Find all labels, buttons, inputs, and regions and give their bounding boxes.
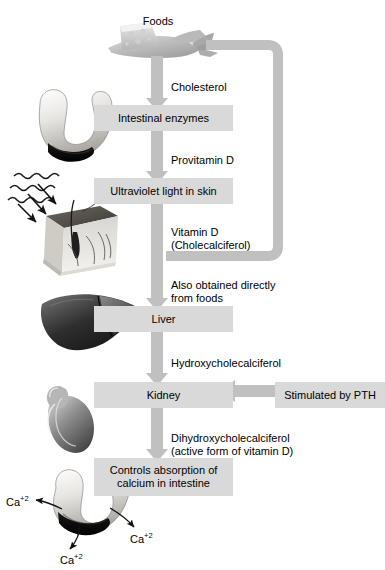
- arrow-liver-to-kidney: [146, 331, 168, 386]
- calcium-arrow-bottom: [70, 524, 80, 549]
- process-box-ultraviolet-light-in-skin: Ultraviolet light in skin: [94, 178, 233, 204]
- arrow-label-dihydroxycholecalciferol: Dihydroxycholecalciferol (active form of…: [171, 419, 293, 458]
- arrow-intestine-to-skin: [146, 129, 168, 184]
- calcium-ion-label-bottom: Ca+2: [60, 551, 83, 566]
- box-label-stimulated-by-pth: Stimulated by PTH: [284, 389, 376, 402]
- box-label-controls-absorption: Controls absorption of calcium in intest…: [110, 464, 218, 490]
- box-label-liver: Liver: [152, 313, 176, 326]
- calcium-arrow-left: [36, 500, 62, 509]
- box-label-kidney: Kidney: [147, 389, 181, 402]
- skin-cross-section-illustration: [43, 198, 118, 276]
- arrow-label-hydroxycholecalciferol: Hydroxycholecalciferol: [171, 344, 281, 370]
- arrow-skin-to-junction: [151, 202, 163, 256]
- charge-superscript: +2: [20, 494, 29, 503]
- arrow-kidney-to-intestine: [146, 407, 168, 462]
- arrow-label-provitamin-d: Provitamin D: [171, 141, 234, 167]
- process-box-liver: Liver: [94, 306, 233, 332]
- process-box-intestinal-enzymes: Intestinal enzymes: [94, 105, 233, 131]
- uv-ray-arrows: [18, 184, 56, 222]
- arrow-junction-to-liver: [146, 256, 168, 311]
- figure-title-foods: Foods: [126, 2, 190, 28]
- process-box-kidney: Kidney: [94, 382, 233, 408]
- process-box-stimulated-by-pth: Stimulated by PTH: [275, 382, 385, 408]
- arrow-foods-to-intestine: [146, 56, 168, 111]
- box-label-ultraviolet-light-in-skin: Ultraviolet light in skin: [110, 185, 216, 198]
- ultraviolet-rays-icon: [8, 174, 59, 203]
- charge-superscript: +2: [74, 552, 83, 561]
- box-label-intestinal-enzymes: Intestinal enzymes: [118, 112, 209, 125]
- calcium-ion-label-right: Ca+2: [130, 530, 153, 545]
- process-box-controls-absorption: Controls absorption of calcium in intest…: [94, 458, 233, 496]
- kidney-illustration: [47, 386, 94, 453]
- arrow-label-cholesterol: Cholesterol: [171, 68, 227, 94]
- calcium-ion-label-left: Ca+2: [6, 493, 29, 508]
- vitamin-d-pathway-diagram: Intestinal enzymes Ultraviolet light in …: [0, 0, 385, 570]
- charge-superscript: +2: [144, 531, 153, 540]
- arrow-label-also-obtained-directly-from-foods: Also obtained directly from foods: [171, 266, 276, 305]
- arrow-label-vitamin-d: Vitamin D (Cholecalciferol): [171, 213, 250, 252]
- calcium-arrow-right: [110, 508, 134, 527]
- calcium-flow-arrows: [36, 500, 134, 549]
